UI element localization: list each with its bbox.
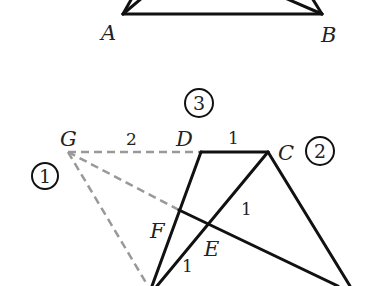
segment-c-to-bottom-right bbox=[268, 152, 350, 286]
geometry-diagram: A B G D C F E 2 1 1 1 1 2 3 bbox=[0, 0, 375, 286]
label-d: D bbox=[175, 127, 193, 151]
circled-number-3: 3 bbox=[185, 89, 213, 117]
label-c: C bbox=[278, 141, 294, 165]
circled-number-1: 1 bbox=[32, 163, 58, 189]
top-triangle bbox=[123, 0, 322, 14]
circled-3-text: 3 bbox=[193, 92, 205, 114]
segment-f-to-bottom-right bbox=[179, 210, 338, 286]
circled-1-text: 1 bbox=[39, 165, 51, 187]
circled-number-2: 2 bbox=[306, 137, 334, 165]
label-a: A bbox=[99, 21, 116, 45]
label-b: B bbox=[320, 23, 336, 47]
label-e: E bbox=[203, 237, 219, 261]
length-e-bottom: 1 bbox=[182, 256, 193, 276]
length-gd: 2 bbox=[126, 129, 137, 149]
length-dc: 1 bbox=[228, 128, 239, 148]
label-f: F bbox=[149, 219, 166, 243]
segment-c-to-bottom-left bbox=[157, 152, 268, 286]
length-ce: 1 bbox=[241, 199, 252, 219]
label-g: G bbox=[60, 127, 77, 151]
circled-2-text: 2 bbox=[314, 140, 326, 162]
